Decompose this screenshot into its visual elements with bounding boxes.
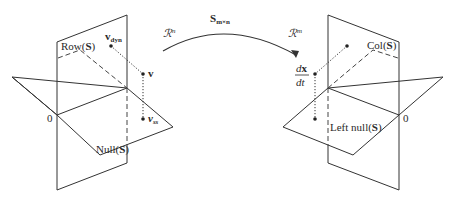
dxdt-denominator: dt <box>296 76 306 88</box>
dxdt-point <box>313 72 317 76</box>
col-space-plane-upper <box>328 15 399 115</box>
codomain-space-label: ℛm <box>288 27 302 39</box>
left-origin-label: 0 <box>47 112 53 124</box>
upper-to-dxdt-dotted <box>315 46 347 74</box>
vdyn-label: vdyn <box>105 30 122 44</box>
left-null-space-plane <box>283 77 443 155</box>
v-label: v <box>148 67 154 79</box>
right-figure: Col(S) Left null(S) 0 dx dt <box>283 15 443 190</box>
intersection-line <box>328 88 399 115</box>
arrowhead-icon <box>291 50 299 58</box>
left-null-point <box>313 117 317 121</box>
dxdt-label: dx dt <box>295 62 309 88</box>
left-figure: Row(S) Null(S) 0 vdyn v vss <box>12 15 173 190</box>
row-space-label: Row(S) <box>61 40 96 53</box>
null-space-label: Null(S) <box>96 143 129 156</box>
vss-point <box>141 117 145 121</box>
mapping-arc <box>163 34 296 55</box>
null-plane-edge <box>12 77 57 115</box>
dxdt-numerator: dx <box>296 62 308 74</box>
vdyn-point <box>109 44 113 48</box>
v-point <box>141 72 145 76</box>
row-space-plane-upper <box>57 15 127 115</box>
right-origin-label: 0 <box>403 112 409 124</box>
col-space-point <box>345 44 349 48</box>
four-subspaces-diagram: Row(S) Null(S) 0 vdyn v vss Sm×n ℛn ℛm C… <box>0 0 454 200</box>
matrix-label: Sm×n <box>210 12 230 26</box>
col-space-label: Col(S) <box>367 39 397 52</box>
domain-space-label: ℛn <box>163 27 176 39</box>
left-null-space-label: Left null(S) <box>330 121 382 134</box>
intersection-line <box>57 88 127 115</box>
mapping-arrow: Sm×n ℛn ℛm <box>163 12 302 58</box>
